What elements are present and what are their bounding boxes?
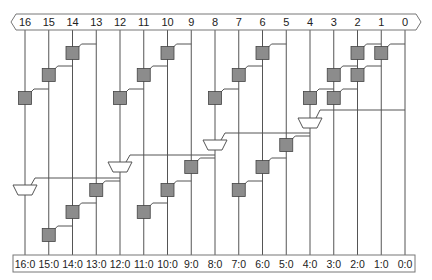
carry-connector	[290, 136, 310, 141]
output-label: 10:0	[157, 258, 178, 270]
output-prefix-footer: 16:015:014:013:012:011:010:09:08:07:06:0…	[13, 255, 415, 272]
prefix-cell	[351, 69, 364, 82]
carry-connector	[53, 66, 73, 71]
prefix-cell	[66, 206, 79, 219]
input-label: 4	[307, 16, 313, 28]
input-label: 12	[114, 16, 126, 28]
carry-connector	[338, 89, 358, 94]
carry-connector	[219, 89, 239, 94]
prefix-cell	[42, 229, 55, 242]
carry-connector	[100, 181, 120, 186]
input-label: 2	[354, 16, 360, 28]
output-label: 1:0	[374, 258, 389, 270]
carry-connector	[29, 89, 49, 94]
prefix-cell	[327, 69, 340, 82]
carry-connector	[243, 181, 263, 186]
carry-connector	[267, 158, 287, 163]
input-label: 16	[19, 16, 31, 28]
mux-select-line	[316, 110, 405, 118]
prefix-cell	[137, 206, 150, 219]
carry-connector	[77, 44, 97, 49]
carry-connector	[148, 66, 168, 71]
input-label: 3	[331, 16, 337, 28]
output-label: 6:0	[255, 258, 270, 270]
mux	[203, 140, 227, 150]
input-label: 10	[161, 16, 173, 28]
input-label: 7	[236, 16, 242, 28]
prefix-cell	[232, 184, 245, 197]
prefix-cell	[114, 92, 127, 105]
output-label: 5:0	[279, 258, 294, 270]
input-label: 5	[283, 16, 289, 28]
carry-connector	[385, 44, 405, 49]
output-label: 3:0	[326, 258, 341, 270]
prefix-adder-diagram: 161514131211109876543210 16:015:014:013:…	[0, 0, 432, 280]
prefix-cell	[256, 161, 269, 174]
prefix-cell	[209, 92, 222, 105]
output-label: 13:0	[86, 258, 107, 270]
output-label: 0:0	[398, 258, 413, 270]
carry-connector	[195, 158, 215, 163]
output-label: 9:0	[184, 258, 199, 270]
input-label: 8	[212, 16, 218, 28]
input-label: 14	[66, 16, 78, 28]
carry-connector	[362, 66, 382, 71]
output-label: 14:0	[62, 258, 83, 270]
output-label: 7:0	[231, 258, 246, 270]
input-label: 11	[138, 16, 149, 28]
prefix-cell	[232, 69, 245, 82]
prefix-cell	[256, 47, 269, 60]
mux	[108, 162, 132, 172]
input-label: 0	[402, 16, 408, 28]
mux	[298, 118, 322, 128]
output-label: 4:0	[303, 258, 318, 270]
input-bit-header: 161514131211109876543210	[11, 14, 421, 30]
input-label: 13	[90, 16, 102, 28]
prefix-cell	[90, 184, 103, 197]
carry-connector	[172, 44, 192, 49]
input-label: 9	[188, 16, 194, 28]
prefix-cell	[161, 47, 174, 60]
output-label: 8:0	[208, 258, 223, 270]
prefix-cell	[185, 161, 198, 174]
prefix-cell	[351, 47, 364, 60]
carry-connector	[124, 89, 144, 94]
prefix-cell	[375, 47, 388, 60]
prefix-cell	[19, 92, 32, 105]
prefix-cell	[137, 69, 150, 82]
input-label: 15	[43, 16, 55, 28]
input-label: 1	[378, 16, 384, 28]
prefix-nodes	[13, 44, 405, 242]
output-label: 16:0	[15, 258, 36, 270]
prefix-cell	[280, 139, 293, 152]
carry-connector	[243, 66, 263, 71]
carry-connector	[77, 203, 97, 208]
prefix-cell	[161, 184, 174, 197]
carry-connector	[148, 203, 168, 208]
mux	[13, 185, 37, 195]
prefix-cell	[42, 69, 55, 82]
output-label: 15:0	[39, 258, 60, 270]
carry-connector	[172, 181, 192, 186]
carry-connector	[267, 44, 287, 49]
prefix-cell	[66, 47, 79, 60]
output-label: 11:0	[134, 258, 154, 270]
carry-connector	[53, 226, 73, 231]
input-label: 6	[259, 16, 265, 28]
prefix-cell	[327, 92, 340, 105]
output-label: 2:0	[350, 258, 365, 270]
output-label: 12:0	[110, 258, 131, 270]
prefix-cell	[304, 92, 317, 105]
